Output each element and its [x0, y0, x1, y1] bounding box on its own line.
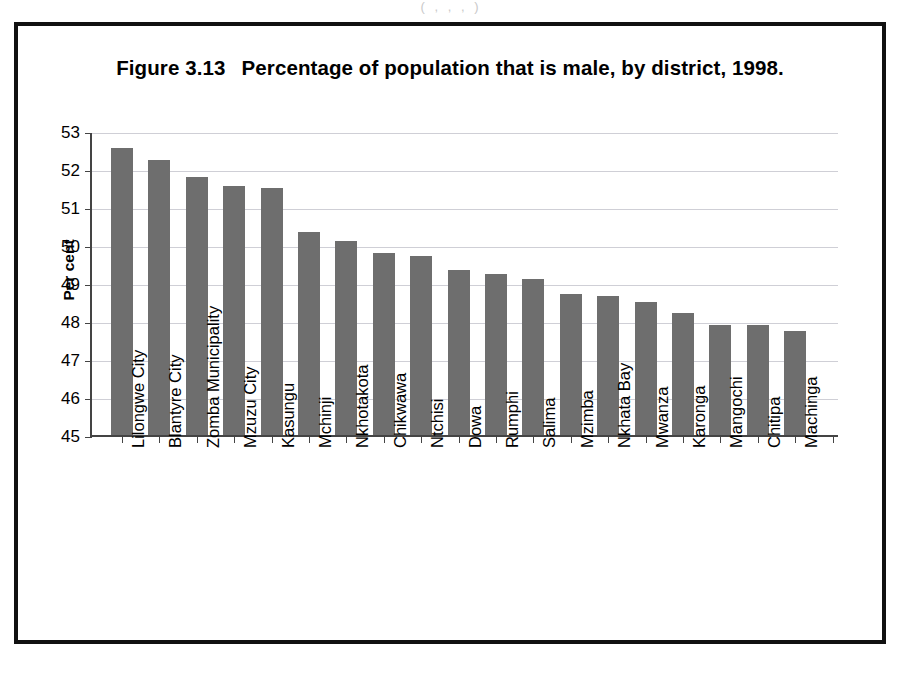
plot-area: 454647484950515253 Lilongwe CityBlantyre… — [90, 133, 838, 437]
x-axis-label: Mchinji — [316, 397, 335, 448]
y-axis-tick-mark — [85, 133, 92, 134]
x-axis-tick-mark — [346, 435, 347, 443]
y-axis-tick-label: 46 — [61, 389, 80, 409]
y-axis-tick-label: 51 — [61, 199, 80, 219]
x-axis-tick-mark — [758, 435, 759, 443]
y-axis-tick-mark — [85, 247, 92, 248]
x-axis-tick-mark — [571, 435, 572, 443]
x-axis-label: Salima — [540, 398, 559, 448]
x-axis-label: Lilongwe City — [129, 350, 148, 448]
y-axis-tick-label: 53 — [61, 123, 80, 143]
y-axis-tick-mark — [85, 437, 92, 438]
x-axis-label: Kasungu — [279, 383, 298, 448]
x-axis-tick-mark — [159, 435, 160, 443]
y-axis-tick-mark — [85, 209, 92, 210]
scan-artifact-top: ( , , , ) — [0, 0, 902, 14]
x-axis-label: Chitipa — [765, 397, 784, 448]
y-axis-tick-label: 47 — [61, 351, 80, 371]
x-axis-tick-mark — [384, 435, 385, 443]
y-axis-tick-label: 50 — [61, 237, 80, 257]
x-axis-tick-mark — [496, 435, 497, 443]
y-axis-tick-label: 48 — [61, 313, 80, 333]
x-axis-tick-mark — [459, 435, 460, 443]
y-axis-tick-mark — [85, 171, 92, 172]
y-axis-tick-mark — [85, 399, 92, 400]
y-axis-tick-mark — [85, 285, 92, 286]
figure-frame: Figure 3.13Percentage of population that… — [14, 22, 886, 644]
x-axis-tick-mark — [421, 435, 422, 443]
x-axis-tick-mark — [234, 435, 235, 443]
x-axis-label: Rumphi — [503, 391, 522, 448]
x-axis-label: Ntchisi — [428, 398, 447, 448]
x-axis-tick-mark — [608, 435, 609, 443]
x-axis-label: Mzuzu City — [241, 366, 260, 448]
chart-plot-wrapper: Per cent 454647484950515253 Lilongwe Cit… — [18, 26, 890, 640]
x-axis-tick-mark — [197, 435, 198, 443]
x-axis-label: Blantyre City — [166, 354, 185, 448]
x-axis-label: Dowa — [466, 406, 485, 448]
x-axis-tick-mark — [683, 435, 684, 443]
x-axis-tick-mark — [720, 435, 721, 443]
x-axis-tick-mark — [122, 435, 123, 443]
x-axis-tick-mark — [533, 435, 534, 443]
x-axis-label: Mwanza — [653, 387, 672, 448]
x-axis-label: Mangochi — [727, 376, 746, 448]
x-axis-tick-mark — [272, 435, 273, 443]
x-axis-label: Chikwawa — [391, 373, 410, 448]
x-axis-label: Karonga — [690, 386, 709, 448]
x-axis-label: Machinga — [802, 376, 821, 448]
x-axis-label: Nkhata Bay — [615, 363, 634, 448]
y-axis-title: Per cent — [60, 210, 78, 330]
y-axis-tick-mark — [85, 323, 92, 324]
x-axis-tick-mark — [795, 435, 796, 443]
y-axis-tick-label: 52 — [61, 161, 80, 181]
x-axis-tick-mark — [646, 435, 647, 443]
x-axis-label: Mzimba — [578, 390, 597, 448]
y-axis-tick-label: 49 — [61, 275, 80, 295]
x-axis-label: Zomba Municipality — [204, 306, 223, 448]
y-axis-tick-label: 45 — [61, 427, 80, 447]
y-axis-tick-mark — [85, 361, 92, 362]
x-axis-tick-mark — [833, 435, 834, 443]
x-axis-label: Nkhotakota — [353, 365, 372, 448]
x-axis-tick-mark — [309, 435, 310, 443]
